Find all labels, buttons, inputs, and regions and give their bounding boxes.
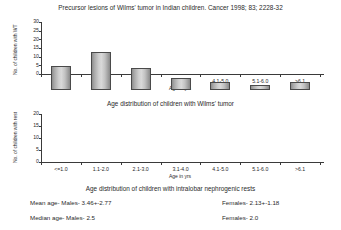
x-tick-mark [121,163,122,165]
stats-mean-males: Mean age- Males- 3.46+-2.77 [30,199,111,206]
x-tick-mark [240,75,241,77]
x-tick-label: <=1.0 [43,166,79,172]
y-tick-mark [39,57,41,58]
x-tick-mark [81,163,82,165]
x-tick-mark [41,163,42,165]
x-tick-mark [280,75,281,77]
x-tick-mark [121,75,122,77]
x-axis-line [41,74,324,75]
x-tick-label: 2.1-3.0 [123,166,159,172]
bar [51,66,71,90]
y-tick-mark [39,39,41,40]
y-axis-title: No. of children with rest [12,112,18,163]
y-tick-mark [39,150,41,151]
y-tick-mark [39,48,41,49]
x-axis-title: Age in yrs [150,173,210,179]
x-tick-mark [320,163,321,165]
x-tick-mark [200,163,201,165]
y-tick-mark [39,65,41,66]
bar [91,52,111,90]
chart-1-caption: Age distribution of children with Wilms'… [0,100,341,107]
y-tick-mark [39,126,41,127]
chart-nephrogenic-rests: 05101520No. of children with rest<=1.01.… [0,110,341,182]
x-tick-mark [200,75,201,77]
x-tick-mark [161,75,162,77]
bar [171,78,191,90]
y-axis-line [41,22,42,75]
x-tick-mark [161,163,162,165]
y-axis-line [41,114,42,163]
y-tick-mark [39,138,41,139]
bar [290,82,310,90]
bar [250,85,270,90]
x-tick-mark [280,163,281,165]
x-tick-label: 3.1-4.0 [163,166,199,172]
bar [131,68,151,90]
x-tick-label: 4.1-5.0 [202,166,238,172]
x-tick-label: >6.1 [282,166,318,172]
x-axis-line [41,162,324,163]
y-tick-mark [39,31,41,32]
bar [210,82,230,90]
x-tick-mark [41,75,42,77]
x-tick-label: 5.1-6.0 [242,166,278,172]
chart-2-caption: Age distribution of children with intral… [0,185,341,192]
x-tick-mark [240,163,241,165]
x-tick-label: 5.1-6.0 [242,78,278,84]
x-tick-mark [81,75,82,77]
stats-median-males: Median age- Males- 2.5 [30,214,95,221]
y-tick-mark [39,22,41,23]
y-axis-title: No. of children with WT [12,24,18,75]
page-title: Precursor lesions of Wilms' tumor in Ind… [0,4,341,11]
stats-median-females: Females- 2.0 [222,214,258,221]
x-tick-mark [320,75,321,77]
figure-page: Precursor lesions of Wilms' tumor in Ind… [0,0,341,230]
y-tick-mark [39,114,41,115]
stats-mean-females: Females- 2.13+-1.18 [222,199,279,206]
x-tick-label: 1.1-2.0 [83,166,119,172]
